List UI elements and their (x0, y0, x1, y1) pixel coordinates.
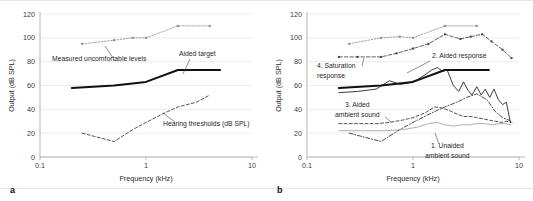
data-point-marker (427, 43, 429, 45)
data-series-line (82, 95, 210, 141)
data-point-marker (476, 25, 478, 27)
chart-panel-b: 0204060801001200.1110Frequency (kHz)Outp… (267, 0, 533, 201)
data-point-marker (511, 57, 513, 59)
y-tick-label: 120 (290, 10, 302, 19)
chart-annotation-label: 3. Aided (345, 101, 370, 108)
annotation-leader-line (362, 58, 364, 66)
annotation-leader-line (407, 61, 430, 73)
x-tick-label: 0.1 (35, 161, 45, 170)
data-point-marker (357, 56, 359, 58)
data-point-marker (481, 33, 483, 35)
data-point-marker (380, 37, 382, 39)
data-point-marker (132, 37, 134, 39)
y-tick-label: 80 (294, 57, 302, 66)
figure-container: 0204060801001200.1110Frequency (kHz)Outp… (0, 0, 533, 201)
chart-svg-b: 0204060801001200.1110Frequency (kHz)Outp… (267, 0, 533, 201)
data-point-marker (412, 37, 414, 39)
y-tick-label: 40 (27, 105, 35, 114)
y-tick-label: 100 (290, 33, 302, 42)
data-point-marker (113, 39, 115, 41)
data-point-marker (444, 25, 446, 27)
chart-annotation-label: Aided target (179, 50, 216, 58)
data-point-marker (470, 36, 472, 38)
chart-svg-a: 0204060801001200.1110Frequency (kHz)Outp… (0, 0, 266, 201)
data-point-marker (399, 36, 401, 38)
data-series-line (82, 26, 210, 44)
y-tick-label: 20 (27, 129, 35, 138)
y-tick-label: 100 (23, 33, 35, 42)
y-axis-title: Output (dB SPL) (274, 59, 283, 112)
chart-annotation-label: 2. Aided response (432, 52, 487, 60)
x-tick-label: 1 (411, 161, 415, 170)
data-point-marker (145, 37, 147, 39)
data-point-marker (412, 48, 414, 50)
x-tick-label: 0.1 (302, 161, 312, 170)
data-point-marker (380, 56, 382, 58)
panel-letter: a (10, 185, 16, 195)
data-point-marker (459, 38, 461, 40)
data-point-marker (338, 56, 340, 58)
data-point-marker (502, 49, 504, 51)
data-point-marker (209, 25, 211, 27)
panel-letter: b (277, 185, 283, 195)
data-point-marker (396, 52, 398, 54)
x-tick-label: 1 (144, 161, 148, 170)
chart-annotation-label: response (317, 72, 345, 80)
y-tick-label: 20 (294, 129, 302, 138)
x-axis-title: Frequency (kHz) (119, 174, 172, 183)
data-series-line (72, 70, 220, 88)
annotation-leader-line (385, 117, 391, 122)
y-tick-label: 60 (294, 81, 302, 90)
data-series-line (339, 70, 489, 88)
data-point-marker (348, 43, 350, 45)
chart-annotation-label: 1. Unaided (431, 142, 464, 149)
data-point-marker (81, 43, 83, 45)
y-tick-label: 80 (27, 57, 35, 66)
chart-annotation-label: 4. Saturation (317, 62, 356, 69)
x-tick-label: 10 (515, 161, 523, 170)
data-point-marker (177, 25, 179, 27)
data-point-marker (444, 33, 446, 35)
y-axis-title: Output (dB SPL) (7, 59, 16, 112)
data-point-marker (490, 40, 492, 42)
chart-annotation-label: ambient sound (425, 152, 470, 159)
y-tick-label: 120 (23, 10, 35, 19)
data-series-line (349, 26, 477, 44)
chart-panel-a: 0204060801001200.1110Frequency (kHz)Outp… (0, 0, 266, 201)
chart-annotation-label: Hearing thresholds (dB SPL) (163, 120, 250, 128)
annotation-leader-line (183, 59, 190, 74)
chart-annotation-label: Measured uncomfortable levels (52, 55, 147, 62)
x-axis-title: Frequency (kHz) (386, 174, 439, 183)
y-tick-label: 40 (294, 105, 302, 114)
chart-annotation-label: ambient sound (335, 111, 380, 118)
y-tick-label: 60 (27, 81, 35, 90)
x-tick-label: 10 (248, 161, 256, 170)
